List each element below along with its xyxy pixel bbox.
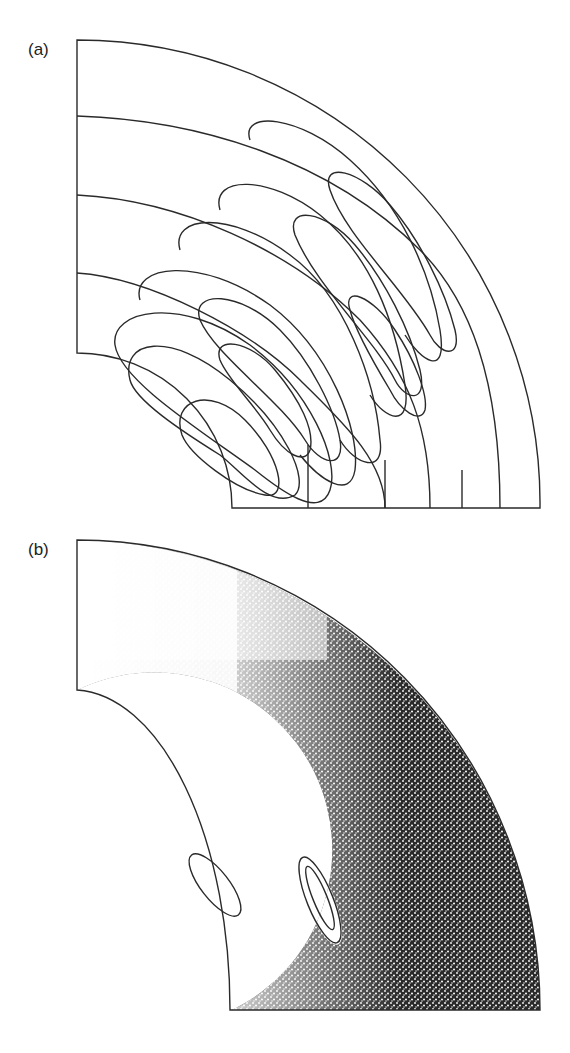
island-left bbox=[181, 846, 250, 923]
figure-canvas bbox=[0, 0, 570, 1053]
panel-b bbox=[77, 540, 547, 1010]
panel-a bbox=[77, 40, 540, 508]
scatter-region bbox=[77, 540, 547, 1010]
panel-a-boundary bbox=[77, 40, 540, 508]
